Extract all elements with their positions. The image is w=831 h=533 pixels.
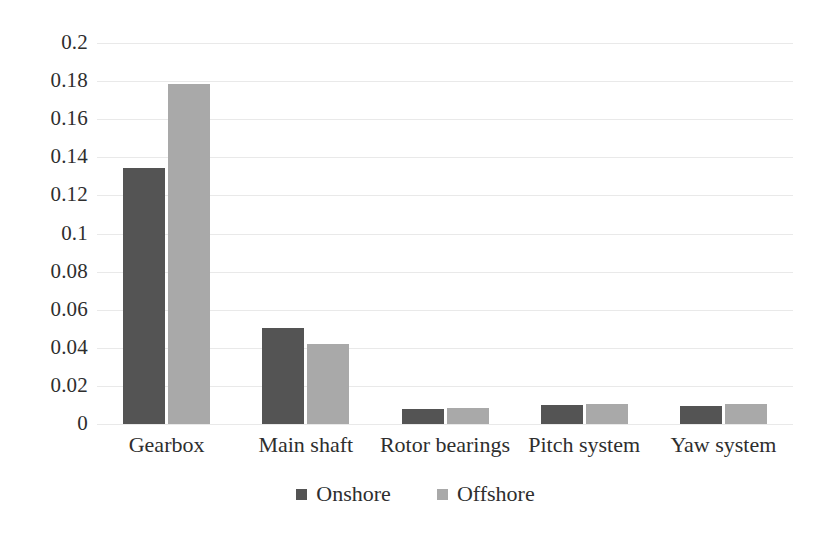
bar-chart: 00.020.040.060.080.10.120.140.160.180.2 … — [0, 0, 831, 533]
x-tick-label: Pitch system — [515, 430, 654, 460]
bar-offshore-yaw-system — [725, 404, 767, 424]
legend-label: Onshore — [316, 482, 391, 506]
bar-onshore-gearbox — [123, 168, 165, 424]
y-tick-label: 0.16 — [0, 108, 88, 129]
legend-swatch-icon — [437, 489, 448, 500]
legend-swatch-icon — [296, 489, 307, 500]
y-tick-label: 0.1 — [0, 223, 88, 244]
bar-onshore-main-shaft — [262, 328, 304, 424]
bar-offshore-pitch-system — [586, 404, 628, 424]
bar-offshore-main-shaft — [307, 344, 349, 424]
y-tick-label: 0.04 — [0, 337, 88, 358]
y-tick-label: 0 — [0, 413, 88, 434]
x-axis: GearboxMain shaftRotor bearingsPitch sys… — [97, 430, 793, 464]
x-tick-label: Yaw system — [654, 430, 793, 460]
y-tick-label: 0.06 — [0, 299, 88, 320]
bar-onshore-yaw-system — [680, 406, 722, 424]
bars-layer — [97, 43, 793, 424]
y-tick-label: 0.02 — [0, 375, 88, 396]
bar-offshore-rotor-bearings — [447, 408, 489, 424]
x-tick-label: Rotor bearings — [375, 430, 514, 460]
y-axis: 00.020.040.060.080.10.120.140.160.180.2 — [0, 0, 88, 533]
x-tick-label: Main shaft — [236, 430, 375, 460]
bar-onshore-rotor-bearings — [402, 409, 444, 424]
y-tick-label: 0.12 — [0, 184, 88, 205]
y-tick-label: 0.18 — [0, 70, 88, 91]
bar-offshore-gearbox — [168, 84, 210, 424]
legend-item-onshore[interactable]: Onshore — [296, 482, 391, 506]
y-tick-label: 0.14 — [0, 146, 88, 167]
chart-legend: OnshoreOffshore — [0, 482, 831, 506]
x-tick-label: Gearbox — [97, 430, 236, 460]
y-tick-label: 0.2 — [0, 32, 88, 53]
legend-item-offshore[interactable]: Offshore — [437, 482, 535, 506]
bar-onshore-pitch-system — [541, 405, 583, 424]
legend-label: Offshore — [457, 482, 535, 506]
gridline — [97, 424, 793, 425]
y-tick-label: 0.08 — [0, 261, 88, 282]
